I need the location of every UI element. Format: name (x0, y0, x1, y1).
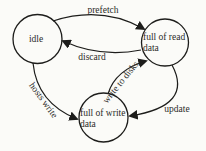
state-diagram-canvas: idle full of read data full of write dat… (0, 0, 206, 151)
transition-label-hosts-write: hosts write (27, 81, 59, 120)
state-label-full-of-read-data-line1: full of read (143, 32, 185, 42)
state-label-idle: idle (29, 34, 43, 44)
state-label-full-of-write-data-line2: data (80, 119, 97, 129)
state-label-full-of-write-data-line1: full of write (80, 108, 125, 118)
transition-prefetch-arrow (53, 15, 144, 29)
state-label-full-of-read-data: full of read data (143, 32, 188, 53)
transition-label-discard: discard (78, 52, 106, 62)
transition-discard-arrow (63, 41, 141, 53)
transition-label-update: update (164, 104, 189, 114)
transition-label-prefetch: prefetch (87, 5, 118, 15)
transition-label-write-to-disks: write to disks (101, 59, 141, 105)
state-label-full-of-write-data: full of write data (80, 108, 128, 129)
state-diagram: idle full of read data full of write dat… (0, 0, 206, 151)
state-label-full-of-read-data-line2: data (143, 43, 160, 53)
